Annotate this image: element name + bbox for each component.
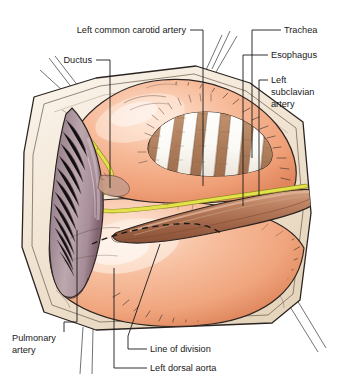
label-line-of-division: Line of division — [150, 344, 211, 354]
anatomy-illustration-svg: Left common carotid artery Trachea Ductu… — [0, 0, 338, 390]
label-trachea: Trachea — [284, 25, 318, 35]
label-left-dorsal-aorta: Left dorsal aorta — [150, 363, 217, 373]
label-esophagus: Esophagus — [271, 50, 317, 60]
label-left-subclavian-artery-line1: Left — [271, 75, 287, 85]
label-left-subclavian-artery-line3: artery — [271, 99, 295, 109]
label-pulmonary-artery-line2: artery — [12, 345, 36, 355]
label-ductus: Ductus — [63, 55, 92, 65]
label-pulmonary-artery-line1: Pulmonary — [12, 333, 56, 343]
anatomical-figure: Left common carotid artery Trachea Ductu… — [0, 0, 338, 390]
label-left-common-carotid-artery: Left common carotid artery — [77, 25, 187, 35]
label-left-subclavian-artery-line2: subclavian — [271, 87, 314, 97]
